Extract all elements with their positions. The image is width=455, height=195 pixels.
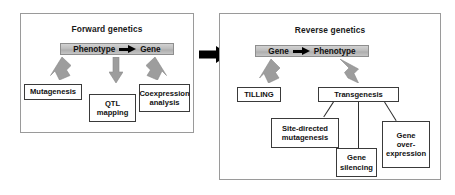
grey-arrow-to-tilling xyxy=(259,59,280,83)
banner-left-label: Phenotype xyxy=(73,45,115,54)
node-transgenesis[interactable]: Transgenesis xyxy=(318,87,399,102)
banner-gene-to-phenotype: Gene Phenotype xyxy=(255,45,369,57)
node-qtl-mapping[interactable]: QTL mapping xyxy=(89,94,136,122)
grey-arrow-to-qtl-mapping xyxy=(109,57,123,83)
node-coexpression-analysis-label-line2: analysis xyxy=(150,98,180,107)
node-mutagenesis-label: Mutagenesis xyxy=(30,87,76,96)
node-qtl-mapping-label-line1: QTL xyxy=(105,99,120,108)
banner-phenotype-to-gene: Phenotype Gene xyxy=(60,43,174,55)
node-tilling[interactable]: TILLING xyxy=(237,87,281,102)
node-tilling-label: TILLING xyxy=(244,90,274,99)
panel-forward-genetics: Forward genetics Phenotype Gene xyxy=(20,13,194,133)
node-gene-silencing-label-line2: silencing xyxy=(340,163,373,172)
node-gene-overexpression-label-line2: over- xyxy=(397,140,416,149)
node-gene-silencing[interactable]: Gene silencing xyxy=(336,148,377,177)
panel-reverse-genetics-title: Reverse genetics xyxy=(220,25,440,35)
banner-left-label: Gene xyxy=(268,47,288,56)
panel-forward-genetics-title: Forward genetics xyxy=(21,24,193,34)
grey-arrow-to-mutagenesis xyxy=(49,57,71,80)
node-coexpression-analysis-label-line1: Coexpression xyxy=(139,89,189,98)
node-gene-overexpression-label-line1: Gene xyxy=(397,131,416,140)
banner-right-label: Phenotype xyxy=(314,47,356,56)
diagram-canvas: Forward genetics Phenotype Gene xyxy=(0,0,455,195)
connector-transgenesis-to-site-directed-mutagenesis xyxy=(323,102,334,118)
node-coexpression-analysis[interactable]: Coexpression analysis xyxy=(139,84,190,112)
node-gene-overexpression[interactable]: Gene over- expression xyxy=(382,121,430,168)
node-site-directed-mutagenesis[interactable]: Site-directed mutagenesis xyxy=(271,118,339,148)
node-site-directed-mutagenesis-label-line1: Site-directed xyxy=(282,124,328,133)
node-mutagenesis[interactable]: Mutagenesis xyxy=(24,84,82,100)
black-block-arrow-right-icon xyxy=(119,46,136,53)
node-gene-silencing-label-line1: Gene xyxy=(347,153,366,162)
node-transgenesis-label: Transgenesis xyxy=(334,90,383,99)
banner-right-label: Gene xyxy=(140,45,160,54)
node-qtl-mapping-label-line2: mapping xyxy=(97,108,129,117)
grey-arrow-to-transgenesis xyxy=(338,59,359,83)
grey-arrow-to-coexpression-analysis xyxy=(146,57,168,80)
panel-reverse-genetics: Reverse genetics Gene Phenotype TILLING … xyxy=(219,13,441,180)
connector-transgenesis-to-gene-overexpression xyxy=(384,102,397,121)
node-gene-overexpression-label-line3: expression xyxy=(386,149,426,158)
node-site-directed-mutagenesis-label-line2: mutagenesis xyxy=(282,133,328,142)
black-block-arrow-right-icon xyxy=(293,48,310,55)
